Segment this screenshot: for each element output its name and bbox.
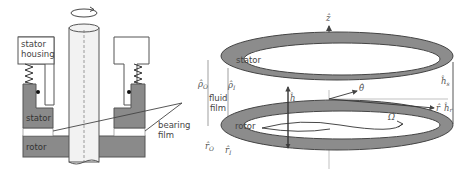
symbol-h-r: ĥr	[444, 102, 453, 113]
symbol-r-i: r̂I	[225, 145, 232, 156]
symbol-r-o: r̂O	[205, 141, 214, 152]
label-ring-rotor: rotor	[235, 121, 256, 131]
symbol-omega: Ω̂	[387, 112, 395, 122]
label-fluid-film-1: fluid	[209, 93, 228, 103]
label-ring-stator: stator	[236, 55, 262, 65]
symbol-rho-o: ρ̂O	[197, 79, 208, 90]
annular-geometry-panel: ẑ stator rotor Ω̂ ĥ θ̂ r	[197, 13, 453, 169]
symbol-h: ĥ	[290, 92, 295, 103]
label-stator-housing-1: stator	[21, 39, 47, 49]
label-bearing-film-2: film	[158, 130, 174, 140]
stator-ring: stator	[221, 32, 453, 80]
bearing-diagram-figure: stator housing stator rotor bearing film…	[0, 0, 469, 169]
label-fluid-film-2: film	[210, 103, 226, 113]
spring-left-icon	[25, 64, 33, 84]
o-ring-left	[36, 90, 40, 94]
symbol-z: ẑ	[325, 13, 331, 23]
label-bearing-film-1: bearing	[158, 120, 190, 130]
rotor-ring: rotor Ω̂	[221, 100, 453, 150]
o-ring-right	[127, 90, 131, 94]
symbol-r: r̂	[436, 103, 441, 113]
label-stator-housing-2: housing	[21, 49, 55, 59]
symbol-rho-i: ρ̂I	[227, 80, 236, 91]
symbol-h-s: ĥs	[441, 75, 450, 87]
cross-section-panel: stator housing stator rotor bearing film	[18, 7, 190, 164]
label-rotor: rotor	[26, 142, 47, 152]
bearing-film-gap-left	[23, 128, 53, 136]
label-stator: stator	[26, 113, 52, 123]
symbol-theta: θ̂	[359, 83, 364, 93]
theta-vector	[329, 91, 357, 99]
bearing-film-gap-right	[114, 128, 145, 136]
